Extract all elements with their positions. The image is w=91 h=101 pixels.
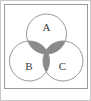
set-label-a: A bbox=[43, 21, 51, 33]
diagram-panel-rect bbox=[5, 5, 88, 89]
set-label-b: B bbox=[25, 60, 32, 72]
figure-container: A B C bbox=[0, 0, 91, 101]
venn-diagram-svg: A B C bbox=[1, 1, 91, 101]
set-label-c: C bbox=[59, 60, 66, 72]
